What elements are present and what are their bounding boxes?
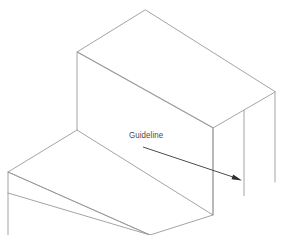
lower-step-top-face [8, 130, 150, 235]
upper-block-group [77, 10, 275, 215]
guideline-label: Guideline [129, 130, 163, 141]
lower-step-front-edge [150, 215, 213, 235]
isometric-drawing-canvas: Guideline [0, 0, 290, 235]
lower-step-group [8, 130, 213, 235]
drawing-vector-layer [0, 0, 290, 235]
lower-step-top-face-right [8, 172, 150, 235]
guideline-arrowhead-icon [232, 175, 243, 181]
lower-step-front-face-bottom-edge [8, 193, 150, 235]
guideline-callout-leader-group [143, 147, 242, 181]
guideline-leader-line [143, 147, 236, 178]
